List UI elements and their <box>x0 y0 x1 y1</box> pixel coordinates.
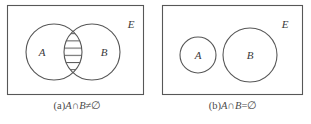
circle-b-label: B <box>247 49 254 61</box>
caption-b-tag: (b) <box>209 100 221 111</box>
circle-b-label: B <box>101 46 108 58</box>
venn-figure: A B E (a)A∩B≠∅ A B E (b)A∩B=∅ <box>0 0 311 124</box>
caption-b-operator: ∩ <box>227 100 235 111</box>
circle-a-label: A <box>38 46 46 58</box>
panel-b-diagram: A B E <box>155 0 311 100</box>
circle-a-label: A <box>194 49 202 61</box>
caption-b: (b)A∩B=∅ <box>155 99 311 111</box>
universe-label-b: E <box>281 18 289 30</box>
caption-b-result: ∅ <box>247 100 257 111</box>
universe-label-a: E <box>127 18 135 30</box>
caption-a: (a)A∩B≠∅ <box>0 99 155 111</box>
panel-b-disjoint: A B E (b)A∩B=∅ <box>155 0 311 124</box>
caption-a-result: ∅ <box>91 100 101 111</box>
panel-a-diagram: A B E <box>0 0 155 100</box>
panel-a-intersecting: A B E (a)A∩B≠∅ <box>0 0 155 124</box>
caption-a-tag: (a) <box>54 100 66 111</box>
